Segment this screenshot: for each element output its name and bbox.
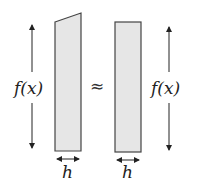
left-h-label: h	[62, 162, 73, 182]
curve-area-strip	[55, 13, 81, 151]
right-fx-label: f(x)	[149, 78, 180, 98]
riemann-approximation-diagram: f(x) h ≈ h f(x)	[0, 0, 198, 182]
left-fx-label: f(x)	[12, 78, 43, 98]
rectangle-strip	[115, 22, 141, 152]
approx-symbol: ≈	[90, 76, 104, 96]
right-h-label: h	[122, 162, 133, 182]
